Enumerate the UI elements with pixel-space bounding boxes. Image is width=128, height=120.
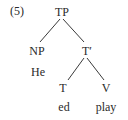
edge-tp-np [40,19,60,42]
node-tp: TP [55,6,69,18]
edge-tbar-t [68,58,84,80]
node-t: T [59,82,66,94]
word-ed: ed [58,101,69,113]
word-play: play [96,101,117,113]
edge-tp-tbar [63,19,84,42]
node-np: NP [29,45,44,57]
node-t-bar: T′ [82,45,92,57]
edge-tbar-v [87,58,104,80]
word-he: He [31,66,45,78]
node-v: V [102,82,111,94]
